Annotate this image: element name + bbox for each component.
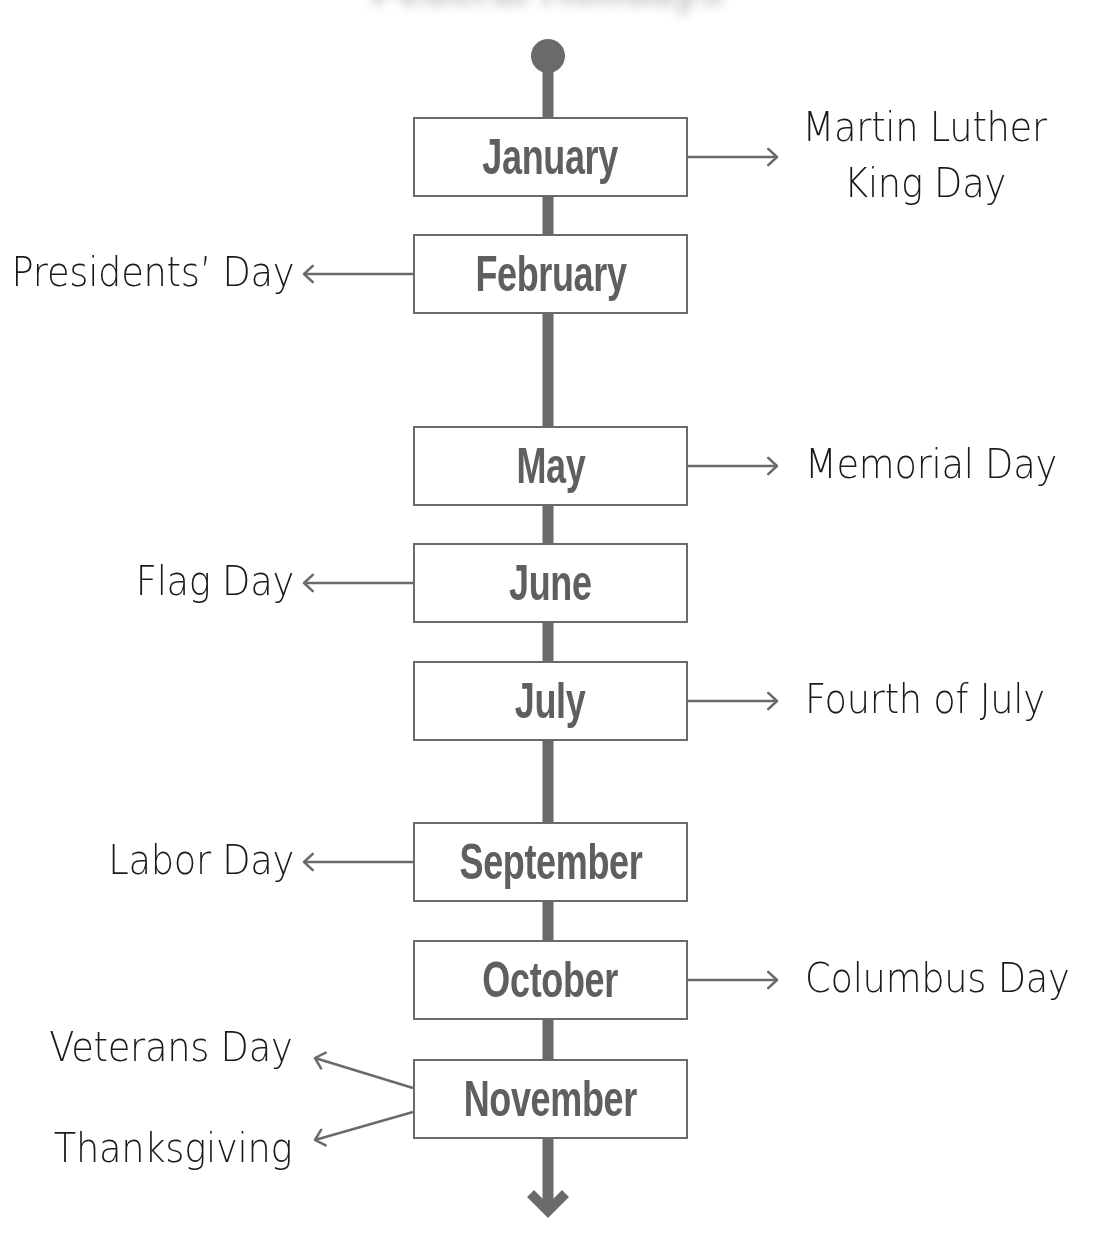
arrow-left-icon: [304, 575, 313, 591]
holiday-label: Labor Day: [92, 832, 294, 888]
arrow-right-icon: [768, 972, 777, 988]
month-label: November: [464, 1074, 637, 1124]
month-label: January: [483, 132, 619, 182]
month-box-september: September: [413, 822, 688, 902]
month-box-june: June: [413, 543, 688, 623]
connector-line: [315, 1058, 413, 1088]
arrow-left-icon: [304, 266, 313, 282]
holiday-label: Flag Day: [122, 553, 294, 609]
holiday-text: Presidents’ Day: [11, 244, 294, 300]
arrow-right-icon: [768, 149, 777, 165]
holiday-label: Presidents’ Day: [0, 244, 294, 300]
holiday-label: Fourth of July: [805, 671, 1066, 727]
arrow-right-icon: [768, 693, 777, 709]
arrow-left-icon: [315, 1130, 326, 1146]
cropped-title-fragment: Federal Holidays: [0, 0, 1095, 10]
month-label: February: [475, 249, 626, 299]
month-label: May: [516, 441, 585, 491]
month-label: September: [459, 837, 642, 887]
month-box-january: January: [413, 117, 688, 197]
arrow-right-icon: [768, 458, 777, 474]
holiday-text: Labor Day: [108, 832, 294, 888]
start-dot-icon: [531, 39, 565, 73]
arrow-down-icon: [527, 1190, 569, 1218]
timeline-spine: [527, 39, 569, 1218]
connector-line: [315, 1112, 413, 1140]
holiday-text: Thanksgiving: [53, 1120, 292, 1176]
month-box-october: October: [413, 940, 688, 1020]
holiday-text: Flag Day: [136, 553, 294, 609]
month-label: October: [483, 955, 619, 1005]
arrow-left-icon: [304, 854, 313, 870]
holiday-text: Columbus Day: [805, 950, 1070, 1006]
holiday-label: Memorial Day: [805, 436, 1079, 492]
holiday-label: Martin LutherKing Day: [790, 99, 1060, 211]
holiday-text: Veterans Day: [49, 1019, 292, 1075]
month-label: June: [509, 558, 592, 608]
month-box-july: July: [413, 661, 688, 741]
holiday-text: King Day: [844, 155, 1006, 211]
month-label: July: [515, 676, 586, 726]
holiday-label: Columbus Day: [805, 950, 1093, 1006]
holiday-text: Martin Luther: [803, 99, 1047, 155]
holiday-text: Memorial Day: [805, 436, 1057, 492]
holiday-label: Veterans Day: [28, 1019, 292, 1075]
month-box-november: November: [413, 1059, 688, 1139]
holiday-label: Thanksgiving: [33, 1120, 292, 1176]
month-box-february: February: [413, 234, 688, 314]
month-box-may: May: [413, 426, 688, 506]
holiday-text: Fourth of July: [805, 671, 1045, 727]
arrow-left-icon: [315, 1053, 326, 1069]
